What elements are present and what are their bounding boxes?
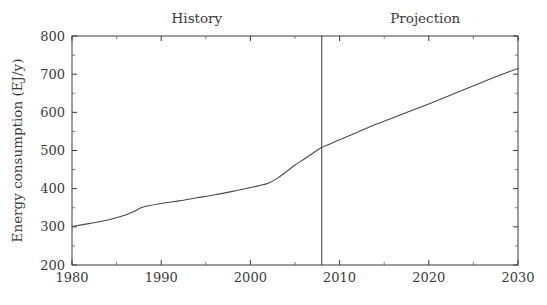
x-tick-label: 2010 <box>323 270 356 285</box>
chart-figure: 198019902000201020202030 200300400500600… <box>0 0 547 305</box>
series-line-energy-consumption <box>72 68 518 226</box>
region-annotations: HistoryProjection <box>172 10 461 26</box>
x-axis-ticks <box>72 36 518 265</box>
plot-frame <box>72 36 518 265</box>
region-label-history: History <box>172 10 223 26</box>
y-axis-ticks <box>72 36 518 265</box>
region-label-projection: Projection <box>390 10 460 26</box>
y-axis-title-group: Energy consumption (EJ/y) <box>9 59 25 243</box>
chart-canvas: 198019902000201020202030 200300400500600… <box>0 0 547 305</box>
y-tick-label: 400 <box>40 181 65 196</box>
plot-area-border <box>72 36 518 265</box>
y-tick-label: 700 <box>40 67 65 82</box>
y-tick-label: 600 <box>40 105 65 120</box>
y-axis-title: Energy consumption (EJ/y) <box>9 59 25 243</box>
y-tick-label: 300 <box>40 219 65 234</box>
x-tick-label: 2000 <box>234 270 267 285</box>
x-axis-tick-labels: 198019902000201020202030 <box>55 270 534 285</box>
y-axis-tick-labels: 200300400500600700800 <box>40 29 65 273</box>
x-tick-label: 2020 <box>412 270 445 285</box>
data-series-group <box>72 68 518 226</box>
y-tick-label: 500 <box>40 143 65 158</box>
y-tick-label: 200 <box>40 258 65 273</box>
y-tick-label: 800 <box>40 29 65 44</box>
x-tick-label: 2030 <box>501 270 534 285</box>
x-tick-label: 1990 <box>145 270 178 285</box>
